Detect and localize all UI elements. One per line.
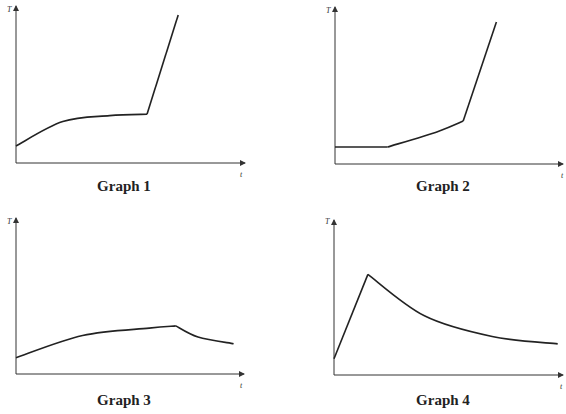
y-axis-label: T	[326, 6, 331, 15]
graph-1-panel: T t Graph 1	[7, 5, 245, 194]
curve-segment-concave-rise	[16, 114, 147, 146]
graph-3-panel: T t Graph 3	[7, 217, 244, 408]
graph-1-caption: Graph 1	[97, 178, 151, 194]
curve-segment-linear	[334, 274, 368, 358]
curve-segment-linear	[147, 15, 178, 114]
curve-segment-linear	[463, 22, 496, 121]
graph-2-caption: Graph 2	[416, 178, 470, 194]
y-axis-label: T	[325, 217, 330, 226]
x-axis-label: t	[240, 381, 243, 390]
graph-4-panel: T t Graph 4	[325, 217, 563, 408]
graph-2-panel: T t Graph 2	[326, 6, 564, 194]
y-axis-label: T	[7, 5, 12, 14]
graph-1-curve	[16, 15, 178, 146]
graph-4-caption: Graph 4	[416, 392, 470, 408]
x-axis-label: t	[561, 171, 564, 180]
curve-segment-decay	[176, 326, 234, 344]
figure: T t Graph 1 T t Graph 2 T t Graph 3 T t …	[0, 0, 566, 414]
graph-4-curve	[334, 274, 558, 358]
x-axis-label: t	[240, 170, 243, 179]
y-axis-label: T	[7, 217, 12, 226]
graph-3-curve	[16, 326, 234, 358]
curve-segment-concave-rise	[388, 121, 464, 147]
curve-segment-concave-rise	[16, 326, 176, 358]
curve-segment-decay	[368, 274, 558, 344]
graph-2-curve	[335, 22, 496, 147]
x-axis-label: t	[560, 382, 563, 391]
graph-3-caption: Graph 3	[97, 392, 151, 408]
